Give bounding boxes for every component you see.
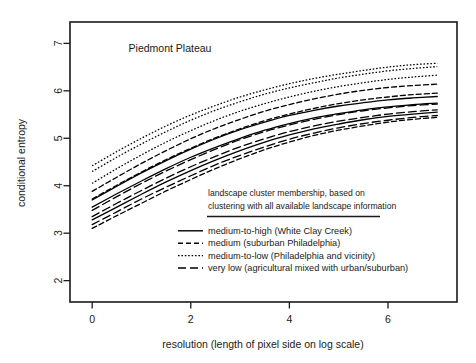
panel-title: Piedmont Plateau: [129, 42, 212, 54]
y-tick-label: 7: [52, 40, 64, 46]
legend-label: very low (agricultural mixed with urban/…: [208, 263, 408, 273]
figure-background: [0, 0, 476, 363]
y-tick-label: 2: [52, 278, 64, 284]
legend-label: medium (suburban Philadelphia): [208, 238, 340, 248]
x-tick-label: 2: [188, 313, 194, 325]
y-tick-label: 4: [52, 183, 64, 189]
x-tick-label: 4: [286, 313, 292, 325]
legend-header-line-1: landscape cluster membership, based on: [208, 188, 365, 198]
figure: 0246234567 Piedmont Plateau conditional …: [0, 0, 476, 363]
legend-header-line-2: clustering with all available landscape …: [208, 201, 396, 211]
conditional-entropy-line-chart: 0246234567 Piedmont Plateau conditional …: [0, 0, 476, 363]
x-tick-label: 0: [89, 313, 95, 325]
y-tick-label: 5: [52, 135, 64, 141]
y-tick-label: 3: [52, 230, 64, 236]
x-axis-label: resolution (length of pixel side on log …: [162, 338, 363, 350]
x-tick-label: 6: [385, 313, 391, 325]
legend-label: medium-to-low (Philadelphia and vicinity…: [208, 251, 375, 261]
y-axis-label: conditional entropy: [15, 118, 27, 207]
y-tick-label: 6: [52, 88, 64, 94]
legend-label: medium-to-high (White Clay Creek): [208, 226, 352, 236]
